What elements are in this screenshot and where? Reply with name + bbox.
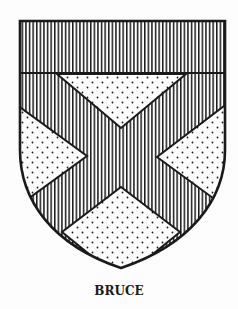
shield-illustration: [0, 0, 238, 309]
caption-text: BRUCE: [0, 284, 238, 298]
shield-field: [0, 0, 238, 309]
chief: [0, 0, 238, 73]
